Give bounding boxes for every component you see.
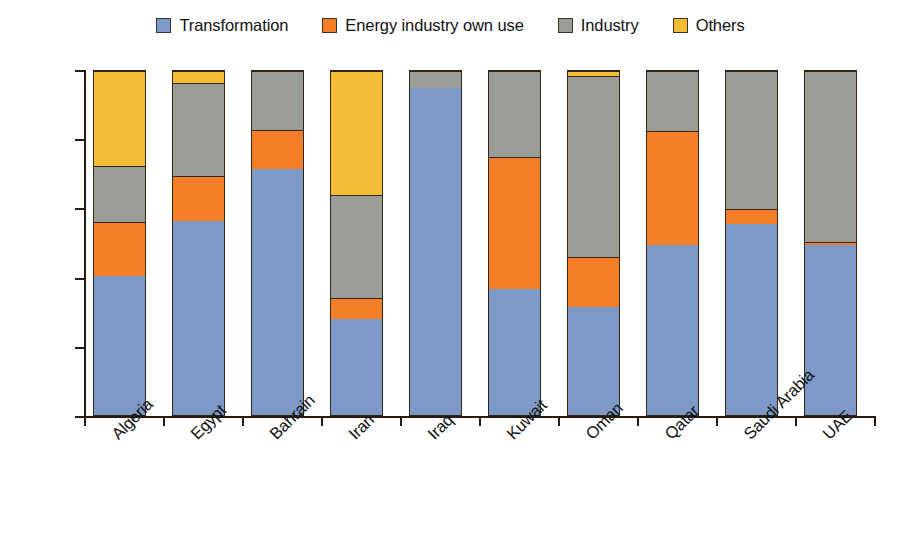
bar-segment[interactable] [94,71,144,166]
stacked-bar[interactable] [646,70,698,416]
bar-segment[interactable] [252,130,302,170]
stacked-bar[interactable] [488,70,540,416]
stacked-bar[interactable] [172,70,224,416]
x-tick-mark [242,416,244,426]
bar-segment[interactable] [331,298,381,319]
bar-segment[interactable] [726,209,776,224]
x-tick-mark [637,416,639,426]
legend-item-energy[interactable]: Energy industry own use [322,16,523,35]
bar-segment[interactable] [805,245,855,415]
bar-segment[interactable] [173,221,223,415]
bar-segment[interactable] [568,76,618,257]
bar-slot [400,70,479,416]
bar-segment[interactable] [331,195,381,298]
x-tick-mark [479,416,481,426]
legend-item-industry[interactable]: Industry [558,16,639,35]
stacked-bar[interactable] [725,70,777,416]
stacked-bar[interactable] [409,70,461,416]
bar-segment[interactable] [173,83,223,176]
bar-segment[interactable] [94,222,144,275]
bar-slot [637,70,716,416]
chart-legend: TransformationEnergy industry own useInd… [0,16,901,35]
bar-segment[interactable] [647,245,697,415]
x-tick-mark [321,416,323,426]
y-tick-mark [75,139,84,141]
bar-slot [242,70,321,416]
bar-segment[interactable] [331,319,381,415]
x-tick-mark [558,416,560,426]
x-tick-mark [795,416,797,426]
bar-slot [716,70,795,416]
bar-segment[interactable] [647,71,697,131]
legend-swatch-others-icon [673,18,688,33]
stacked-bar[interactable] [330,70,382,416]
x-tick-mark [716,416,718,426]
bar-segment[interactable] [489,157,539,289]
bar-segment[interactable] [726,224,776,415]
x-tick-mark [874,416,876,426]
bar-segment[interactable] [647,131,697,245]
legend-label: Industry [581,16,639,35]
bar-slot [321,70,400,416]
bar-segment[interactable] [94,166,144,223]
legend-item-transformation[interactable]: Transformation [156,16,288,35]
bar-segment[interactable] [94,276,144,415]
bar-slot [84,70,163,416]
bar-segment[interactable] [173,176,223,221]
bar-segment[interactable] [805,71,855,242]
bar-segment[interactable] [410,88,460,415]
stacked-bar[interactable] [804,70,856,416]
stacked-bar[interactable] [567,70,619,416]
bar-slot [795,70,874,416]
bar-segment[interactable] [173,71,223,83]
bar-slot [163,70,242,416]
y-tick-mark [75,416,84,418]
legend-swatch-industry-icon [558,18,573,33]
stacked-bar[interactable] [251,70,303,416]
legend-swatch-transformation-icon [156,18,171,33]
bar-segment[interactable] [489,71,539,157]
x-tick-mark [84,416,86,426]
legend-label: Energy industry own use [345,16,523,35]
bar-segment[interactable] [568,257,618,307]
bar-group [84,70,874,416]
y-tick-mark [75,70,84,72]
bar-segment[interactable] [568,307,618,415]
bar-slot [558,70,637,416]
legend-swatch-energy-icon [322,18,337,33]
y-tick-mark [75,208,84,210]
bar-segment[interactable] [489,289,539,415]
y-tick-mark [75,278,84,280]
legend-item-others[interactable]: Others [673,16,745,35]
x-tick-mark [400,416,402,426]
y-tick-mark [75,347,84,349]
bar-segment[interactable] [331,71,381,195]
stacked-bar[interactable] [93,70,145,416]
bar-segment[interactable] [252,71,302,129]
legend-label: Others [696,16,745,35]
bar-slot [479,70,558,416]
chart-plot-area: 0%20%40%60%80%100% AlgeriaEgyptBahrainIr… [84,70,874,416]
bar-segment[interactable] [410,71,460,88]
x-tick-mark [163,416,165,426]
bar-segment[interactable] [252,169,302,415]
legend-label: Transformation [179,16,288,35]
bar-segment[interactable] [726,71,776,209]
